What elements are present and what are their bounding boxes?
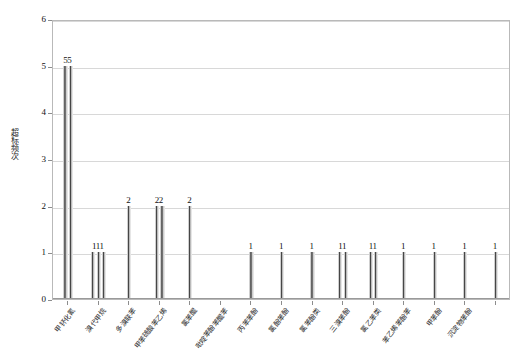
bar-value-label: 11 bbox=[338, 241, 346, 251]
x-category-label: 三溴苯酚 bbox=[329, 307, 353, 334]
bar bbox=[338, 252, 342, 299]
y-tick-label: 3 bbox=[28, 154, 46, 164]
x-tick-mark bbox=[250, 301, 251, 305]
bar bbox=[463, 252, 467, 299]
gridline bbox=[53, 208, 509, 209]
y-tick-label: 4 bbox=[28, 107, 46, 117]
bar bbox=[160, 206, 164, 299]
bar bbox=[344, 252, 348, 299]
bar-value-label: 11 bbox=[369, 241, 377, 251]
x-tick-mark bbox=[159, 301, 160, 305]
bar bbox=[310, 252, 314, 299]
bar-chart: 超标频次 0123456 55111222211111111111 甲钚化氰溴代… bbox=[0, 0, 530, 360]
bar-value-label: 1 bbox=[248, 241, 252, 251]
bar-value-label: 2 bbox=[126, 195, 130, 205]
x-tick-mark bbox=[464, 301, 465, 305]
bar bbox=[127, 206, 131, 299]
y-tick-label: 5 bbox=[28, 61, 46, 71]
x-category-label: 苯乙烯苯酚苯 bbox=[381, 307, 413, 345]
bar bbox=[249, 252, 253, 299]
x-category-label: 丙苯苯酚 bbox=[237, 307, 261, 334]
x-category-label: 氯乙苯类 bbox=[359, 307, 383, 334]
x-tick-mark bbox=[342, 301, 343, 305]
x-axis-baseline bbox=[53, 298, 509, 299]
x-tick-mark bbox=[98, 301, 99, 305]
bar bbox=[155, 206, 159, 299]
x-category-label: 沉淀物苯酚 bbox=[447, 307, 475, 340]
x-tick-mark bbox=[434, 301, 435, 305]
x-tick-mark bbox=[189, 301, 190, 305]
x-tick-mark bbox=[220, 301, 221, 305]
gridline bbox=[53, 21, 509, 22]
x-tick-mark bbox=[373, 301, 374, 305]
bar-value-label: 1 bbox=[432, 241, 436, 251]
x-tick-mark bbox=[281, 301, 282, 305]
bar bbox=[69, 66, 73, 299]
bar bbox=[91, 252, 95, 299]
bar-value-label: 1 bbox=[493, 241, 497, 251]
bar-value-label: 1 bbox=[309, 241, 313, 251]
x-category-label: 吡啶苯酚苯醌苯 bbox=[194, 307, 230, 351]
bar-value-label: 1 bbox=[401, 241, 405, 251]
bar bbox=[374, 252, 378, 299]
bar bbox=[433, 252, 437, 299]
bar bbox=[280, 252, 284, 299]
x-tick-mark bbox=[312, 301, 313, 305]
bar bbox=[402, 252, 406, 299]
gridline bbox=[53, 161, 509, 162]
bar bbox=[369, 252, 373, 299]
bar bbox=[102, 252, 106, 299]
x-category-label: 氯苯醌 bbox=[180, 307, 199, 328]
y-tick-label: 6 bbox=[28, 14, 46, 24]
bar-value-label: 1 bbox=[279, 241, 283, 251]
y-axis-title: 超标频次 bbox=[4, 128, 18, 160]
y-tick-mark bbox=[48, 300, 52, 301]
bar bbox=[494, 252, 498, 299]
bar-value-label: 55 bbox=[63, 55, 71, 65]
gridline bbox=[53, 68, 509, 69]
x-category-label: 甲苯酚 bbox=[425, 307, 444, 328]
bar bbox=[63, 66, 67, 299]
x-category-label: 溴代甲烷 bbox=[85, 307, 109, 334]
bar bbox=[188, 206, 192, 299]
x-tick-mark bbox=[495, 301, 496, 305]
x-tick-mark bbox=[403, 301, 404, 305]
gridline bbox=[53, 114, 509, 115]
y-tick-label: 0 bbox=[28, 294, 46, 304]
bar-value-label: 2 bbox=[187, 195, 191, 205]
x-category-label: 甲苯硫酸苯乙烯 bbox=[133, 307, 169, 351]
y-tick-label: 2 bbox=[28, 201, 46, 211]
bar bbox=[97, 252, 101, 299]
x-category-label: 氯酚苯酚 bbox=[268, 307, 292, 334]
x-tick-mark bbox=[128, 301, 129, 305]
bar-value-label: 1 bbox=[462, 241, 466, 251]
x-category-label: 甲钚化氰 bbox=[54, 307, 78, 334]
plot-area bbox=[52, 20, 510, 300]
x-tick-mark bbox=[67, 301, 68, 305]
x-category-label: 多溴联苯 bbox=[115, 307, 139, 334]
x-category-label: 氯苯酚类 bbox=[298, 307, 322, 334]
y-tick-label: 1 bbox=[28, 247, 46, 257]
bar-value-label: 111 bbox=[92, 241, 104, 251]
bar-value-label: 22 bbox=[155, 195, 163, 205]
